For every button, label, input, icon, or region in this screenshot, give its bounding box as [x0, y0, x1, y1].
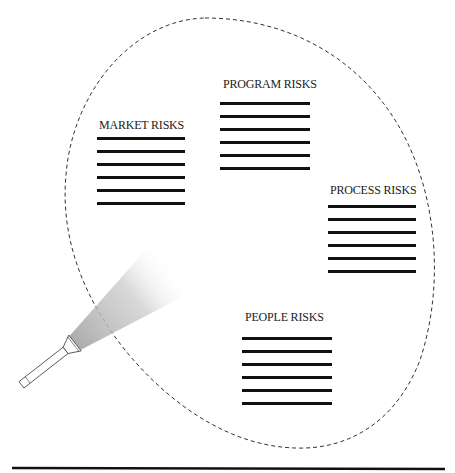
list-line — [328, 257, 416, 260]
list-line — [97, 176, 185, 179]
list-line — [242, 376, 332, 379]
flashlight-icon — [15, 335, 81, 393]
list-line — [97, 137, 185, 140]
baseline-rule — [12, 468, 445, 469]
list-line — [220, 167, 310, 170]
list-line — [97, 163, 185, 166]
list-line — [328, 205, 416, 208]
list-line — [328, 244, 416, 247]
list-line — [97, 189, 185, 192]
program-risks-list — [220, 102, 310, 172]
list-line — [242, 350, 332, 353]
list-line — [220, 102, 310, 105]
list-line — [220, 141, 310, 144]
market-risks-list — [97, 137, 185, 207]
list-line — [328, 270, 416, 273]
people-risks-label: PEOPLE RISKS — [245, 310, 324, 325]
list-line — [328, 231, 416, 234]
process-risks-label: PROCESS RISKS — [330, 183, 416, 198]
people-risks-list — [242, 337, 332, 407]
list-line — [97, 202, 185, 205]
list-line — [242, 389, 332, 392]
list-line — [97, 150, 185, 153]
list-line — [220, 154, 310, 157]
list-line — [242, 402, 332, 405]
list-line — [220, 128, 310, 131]
process-risks-list — [328, 205, 416, 275]
list-line — [220, 115, 310, 118]
list-line — [242, 337, 332, 340]
program-risks-label: PROGRAM RISKS — [223, 77, 317, 92]
list-line — [328, 218, 416, 221]
market-risks-label: MARKET RISKS — [99, 118, 184, 133]
list-line — [242, 363, 332, 366]
